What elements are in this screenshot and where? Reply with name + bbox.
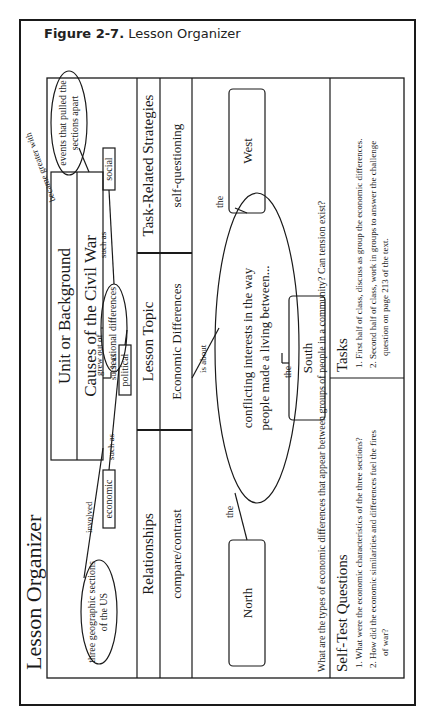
tasks-heading: Tasks bbox=[335, 338, 350, 372]
lesson-topic-value: Economic Differences bbox=[170, 253, 183, 430]
self-test-heading: Self-Test Questions bbox=[335, 554, 350, 672]
political-node: political bbox=[120, 345, 130, 395]
unit-heading: Unit or Background bbox=[56, 172, 73, 460]
social-node: social bbox=[104, 148, 114, 190]
west-node: West bbox=[241, 89, 254, 213]
geographic-node-line2: of the US bbox=[99, 560, 109, 664]
the-south-label: the bbox=[283, 366, 293, 378]
grew-out-of-label: grew out of bbox=[95, 335, 104, 377]
strategies-value: self-questioning bbox=[170, 78, 183, 253]
strategies-heading: Task-Related Strategies bbox=[141, 78, 156, 253]
lesson-organizer: Lesson Organizer Unit or Background Caus… bbox=[19, 19, 418, 708]
involved-label: involved bbox=[85, 502, 94, 534]
relationships-heading: Relationships bbox=[141, 430, 156, 678]
challenge-question: What are the types of economic differenc… bbox=[317, 201, 327, 672]
is-about-label: is about bbox=[199, 345, 208, 373]
center-node-line1: conflicting interests in the way bbox=[241, 203, 254, 493]
events-node-line1: events that pulled the bbox=[58, 71, 68, 175]
the-north-label: the bbox=[225, 506, 235, 518]
north-node: North bbox=[241, 540, 254, 666]
such-as-social-label: such as bbox=[99, 232, 108, 258]
task-item-1: 1. First half of class, discuss as group… bbox=[355, 138, 364, 368]
such-as-political-label: such as bbox=[109, 354, 118, 380]
south-node: South bbox=[301, 296, 314, 420]
economic-node: economic bbox=[104, 470, 114, 528]
events-node-line2: sections apart bbox=[70, 71, 80, 175]
the-west-label: the bbox=[215, 196, 225, 208]
self-test-item-2: 2. How did the economic similarities and… bbox=[369, 430, 378, 668]
organizer-title: Lesson Organizer bbox=[23, 515, 45, 670]
such-as-economic-label: such as bbox=[107, 434, 116, 460]
relationships-value: compare/contrast bbox=[170, 430, 183, 678]
geographic-node-line1: three geographic sections bbox=[87, 560, 97, 664]
center-node-line2: people made a living between... bbox=[258, 203, 271, 493]
task-item-2: 2. Second half of class, work in groups … bbox=[369, 141, 378, 368]
self-test-item-1: 1. What were the economic characteristic… bbox=[355, 437, 364, 668]
lesson-topic-heading: Lesson Topic bbox=[141, 253, 156, 430]
unit-value: Causes of the Civil War bbox=[82, 172, 99, 460]
task-item-2-cont: question on page 213 of the text. bbox=[381, 238, 390, 356]
self-test-item-2-cont: of war? bbox=[381, 629, 390, 656]
